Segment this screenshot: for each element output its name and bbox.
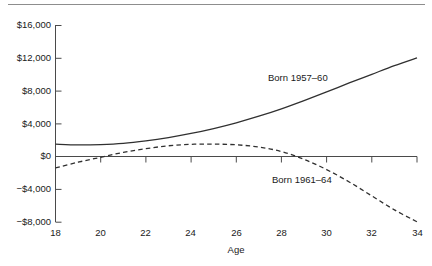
series-line-born-1957-60 [56, 58, 418, 145]
xtick-label-32: 32 [359, 228, 384, 238]
x-axis-title: Age [196, 245, 276, 255]
xtick-label-26: 26 [224, 228, 249, 238]
y-axis-ticks [56, 26, 62, 223]
ytick-label-4000: $4,000 [0, 119, 51, 129]
series-line-born-1961-64 [56, 144, 418, 222]
chart-figure: $16,000 $12,000 $8,000 $4,000 $0 −$4,000… [0, 0, 432, 266]
series-annotation-born-1957-60: Born 1957–60 [268, 72, 328, 83]
xtick-label-18: 18 [43, 228, 68, 238]
x-axis-ticks [56, 157, 418, 163]
ytick-label-minus-4000: −$4,000 [0, 184, 51, 194]
ytick-label-minus-8000: −$8,000 [0, 217, 51, 227]
xtick-label-20: 20 [88, 228, 113, 238]
xtick-label-22: 22 [133, 228, 158, 238]
ytick-label-12000: $12,000 [0, 53, 51, 63]
xtick-label-28: 28 [269, 228, 294, 238]
ytick-label-0: $0 [0, 151, 51, 161]
series-annotation-born-1961-64: Born 1961–64 [272, 174, 332, 185]
ytick-label-16000: $16,000 [0, 20, 51, 30]
xtick-label-30: 30 [314, 228, 339, 238]
ytick-label-8000: $8,000 [0, 86, 51, 96]
xtick-label-34: 34 [405, 228, 430, 238]
xtick-label-24: 24 [178, 228, 203, 238]
